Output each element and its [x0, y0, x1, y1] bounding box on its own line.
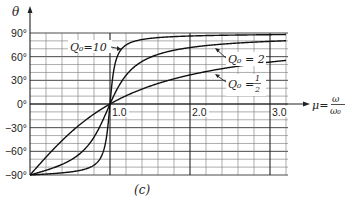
- phase-response-chart: 90°60°30°0°−30°−60°−90°1.02.03.0 θ μ= ω …: [0, 0, 354, 207]
- axes: [28, 6, 311, 175]
- figure-caption: (c): [134, 183, 150, 197]
- svg-text:−60°: −60°: [5, 145, 27, 157]
- svg-text:1: 1: [255, 74, 260, 83]
- svg-text:−30°: −30°: [5, 122, 27, 134]
- svg-text:3.0: 3.0: [272, 106, 287, 118]
- label-q10: Q₀=10: [68, 40, 121, 54]
- svg-text:ω₀: ω₀: [330, 106, 341, 116]
- svg-text:0°: 0°: [17, 98, 27, 110]
- svg-text:Q₀ =: Q₀ =: [228, 78, 254, 91]
- svg-text:2: 2: [254, 85, 260, 94]
- y-axis-label: θ: [12, 5, 20, 19]
- svg-text:Q₀ = 2: Q₀ = 2: [228, 53, 265, 66]
- x-axis-label: μ= ω ω₀: [312, 94, 345, 116]
- svg-text:Q₀=10: Q₀=10: [70, 41, 107, 54]
- svg-text:1.0: 1.0: [112, 106, 127, 118]
- svg-text:90°: 90°: [11, 27, 27, 39]
- svg-text:−90°: −90°: [5, 169, 27, 181]
- svg-text:ω: ω: [332, 94, 340, 104]
- svg-text:2.0: 2.0: [192, 106, 207, 118]
- svg-text:30°: 30°: [11, 74, 27, 86]
- svg-text:μ=: μ=: [312, 99, 328, 112]
- svg-text:60°: 60°: [11, 51, 27, 63]
- label-qhalf: Q₀ = 1 2: [215, 74, 266, 96]
